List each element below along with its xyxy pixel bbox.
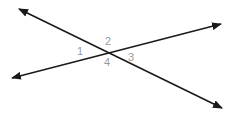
lines-group bbox=[12, 9, 222, 108]
line-a bbox=[19, 9, 222, 108]
angle-label-4: 4 bbox=[104, 56, 110, 68]
angle-label-1: 1 bbox=[77, 45, 83, 57]
angle-label-3: 3 bbox=[128, 51, 134, 63]
angle-label-2: 2 bbox=[105, 35, 111, 47]
line-b bbox=[12, 24, 221, 78]
intersecting-lines-diagram: 1234 bbox=[0, 0, 229, 113]
